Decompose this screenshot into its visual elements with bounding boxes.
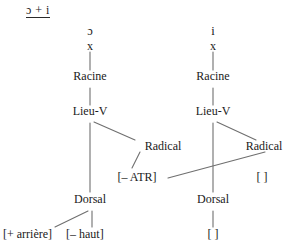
diagram-title: ɔ + i	[26, 3, 50, 18]
left-line-lieu-radical	[94, 122, 135, 140]
left-node-radical: Radical	[145, 140, 182, 153]
left-node-dorsal: Dorsal	[74, 193, 106, 206]
left-segment: ɔ	[87, 25, 93, 38]
left-line-dorsal-arriere	[55, 211, 88, 227]
left-feature-atr: [– ATR]	[118, 171, 157, 184]
left-line-radical-atr	[132, 152, 140, 168]
right-feature-radical-empty: [ ]	[257, 171, 268, 184]
left-node-racine: Racine	[73, 70, 106, 83]
left-feature-haut: [– haut]	[66, 228, 104, 241]
right-node-racine: Racine	[196, 70, 229, 83]
right-node-lieu-v: Lieu-V	[196, 105, 231, 118]
right-line-lieu-radical	[217, 122, 256, 140]
tree-lines	[0, 0, 292, 250]
left-skeleton-slot: x	[87, 40, 93, 53]
right-segment: i	[211, 25, 214, 38]
right-feature-dorsal-empty: [ ]	[208, 228, 219, 241]
association-line-radical-spread	[168, 152, 265, 178]
right-node-dorsal: Dorsal	[197, 193, 229, 206]
feature-geometry-diagram: ɔ + i ɔ x Racine Lieu-V Radical [– ATR] …	[0, 0, 292, 250]
right-skeleton-slot: x	[210, 40, 216, 53]
left-feature-arriere: [+ arrière]	[3, 228, 52, 241]
left-node-lieu-v: Lieu-V	[73, 105, 108, 118]
right-node-radical: Radical	[246, 140, 283, 153]
